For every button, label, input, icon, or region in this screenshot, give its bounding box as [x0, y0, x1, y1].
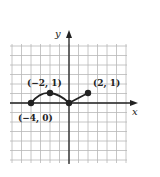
label-point-neg4-0: (−4, 0): [18, 113, 53, 124]
y-axis-arrow-icon: [66, 30, 72, 38]
point-neg4-0: [28, 100, 34, 106]
y-axis: [66, 30, 72, 164]
point-origin: [66, 100, 72, 106]
label-point-2-1: (2, 1): [93, 78, 120, 89]
x-axis-label: x: [132, 106, 138, 117]
label-point-neg2-1: (−2, 1): [27, 78, 62, 89]
y-axis-label: y: [54, 28, 61, 39]
coordinate-plane: x y (−4, 0) (−2, 1) (2, 1): [0, 0, 160, 177]
point-2-1: [85, 90, 91, 96]
point-neg2-1: [47, 90, 53, 96]
